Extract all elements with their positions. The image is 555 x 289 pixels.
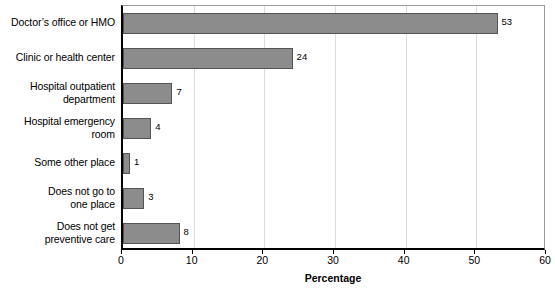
category-label-line: Clinic or health center [0, 51, 115, 64]
category-axis-labels: Doctor’s office or HMOClinic or health c… [0, 5, 115, 250]
bar-value-label: 8 [184, 226, 189, 237]
category-label: Does not go toone place [0, 185, 115, 210]
category-label: Does not getpreventive care [0, 220, 115, 245]
bar-value-label: 53 [502, 16, 513, 27]
bar [123, 153, 130, 174]
bar [123, 48, 293, 69]
category-label: Hospital emergencyroom [0, 115, 115, 140]
category-label-line: Does not go to [0, 185, 115, 198]
x-axis-title: Percentage [121, 272, 545, 284]
bar [123, 188, 144, 209]
category-label-line: Hospital outpatient [0, 80, 115, 93]
category-label-line: one place [0, 198, 115, 211]
bar-band: 24 [123, 41, 544, 76]
bar-value-label: 7 [176, 86, 181, 97]
x-axis-tick-label: 60 [525, 254, 555, 267]
bar [123, 118, 151, 139]
x-axis-tick-label: 20 [242, 254, 282, 267]
bar-value-label: 1 [134, 156, 139, 167]
category-label-line: department [0, 93, 115, 106]
bar-value-label: 4 [155, 121, 160, 132]
category-label-line: Hospital emergency [0, 115, 115, 128]
category-label-line: preventive care [0, 233, 115, 246]
x-axis-tick-label: 10 [172, 254, 212, 267]
bar-band: 7 [123, 76, 544, 111]
bar-band: 53 [123, 6, 544, 41]
category-label: Hospital outpatientdepartment [0, 80, 115, 105]
bar-band: 8 [123, 216, 544, 251]
x-axis-tick-label: 30 [313, 254, 353, 267]
bar-band: 1 [123, 146, 544, 181]
category-label-line: room [0, 128, 115, 141]
category-label: Some other place [0, 156, 115, 169]
category-label: Clinic or health center [0, 51, 115, 64]
bar-chart: Doctor’s office or HMOClinic or health c… [0, 0, 555, 289]
category-label-line: Does not get [0, 220, 115, 233]
bar [123, 13, 498, 34]
plot-area: 532474138 [121, 5, 545, 250]
x-axis-tick-label: 0 [101, 254, 141, 267]
bar-band: 4 [123, 111, 544, 146]
bar-value-label: 3 [148, 191, 153, 202]
category-label: Doctor’s office or HMO [0, 16, 115, 29]
category-label-line: Doctor’s office or HMO [0, 16, 115, 29]
x-axis-tick-label: 40 [384, 254, 424, 267]
bar [123, 83, 172, 104]
x-axis-tick-label: 50 [454, 254, 494, 267]
bar-value-label: 24 [297, 51, 308, 62]
bar-band: 3 [123, 181, 544, 216]
category-label-line: Some other place [0, 156, 115, 169]
bar [123, 223, 180, 244]
